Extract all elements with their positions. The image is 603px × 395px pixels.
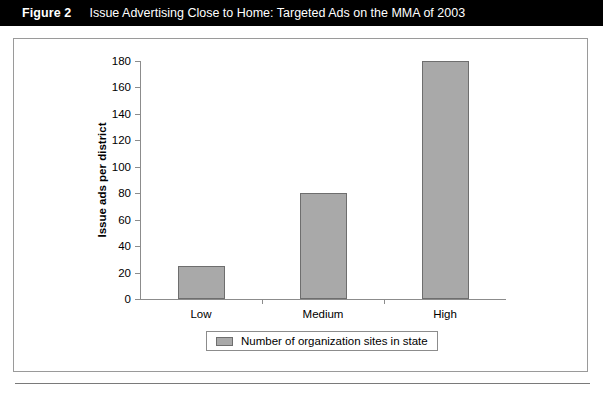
- legend-label: Number of organization sites in state: [241, 335, 428, 347]
- y-tick-label: 80: [118, 187, 131, 199]
- legend-swatch-icon: [216, 337, 233, 346]
- y-tick-mark: [135, 114, 140, 115]
- plot-area: 020406080100120140160180 LowMediumHigh: [140, 61, 506, 299]
- figure-number: Figure 2: [22, 6, 71, 20]
- y-tick-label: 60: [118, 214, 131, 226]
- y-tick-mark: [135, 299, 140, 300]
- chart-legend: Number of organization sites in state: [206, 331, 438, 351]
- y-tick-label: 40: [118, 240, 131, 252]
- y-tick-mark: [135, 140, 140, 141]
- bar-low: [178, 266, 225, 299]
- y-tick-label: 20: [118, 267, 131, 279]
- y-tick-label: 120: [112, 134, 131, 146]
- y-axis-title: Issue ads per district: [93, 61, 111, 299]
- x-category-label: Low: [190, 308, 211, 320]
- footer-divider: [15, 383, 590, 384]
- y-tick-label: 0: [125, 293, 131, 305]
- chart-frame: Issue ads per district 02040608010012014…: [13, 38, 588, 372]
- x-tick-mark: [262, 299, 263, 304]
- bar-medium: [300, 193, 347, 299]
- y-tick-mark: [135, 87, 140, 88]
- y-tick-mark: [135, 220, 140, 221]
- y-tick-label: 180: [112, 55, 131, 67]
- x-category-label: Medium: [303, 308, 344, 320]
- y-tick-mark: [135, 167, 140, 168]
- y-axis-line: [140, 61, 141, 299]
- figure-caption: Issue Advertising Close to Home: Targete…: [89, 6, 465, 20]
- y-tick-mark: [135, 246, 140, 247]
- x-axis-line: [140, 299, 506, 300]
- y-axis-title-label: Issue ads per district: [96, 122, 108, 237]
- y-tick-label: 100: [112, 161, 131, 173]
- y-tick-mark: [135, 193, 140, 194]
- y-tick-mark: [135, 273, 140, 274]
- y-tick-label: 140: [112, 108, 131, 120]
- x-tick-mark: [384, 299, 385, 304]
- figure-title-bar: Figure 2 Issue Advertising Close to Home…: [0, 0, 603, 26]
- x-category-label: High: [433, 308, 457, 320]
- bar-high: [422, 61, 469, 299]
- y-tick-label: 160: [112, 81, 131, 93]
- y-tick-mark: [135, 61, 140, 62]
